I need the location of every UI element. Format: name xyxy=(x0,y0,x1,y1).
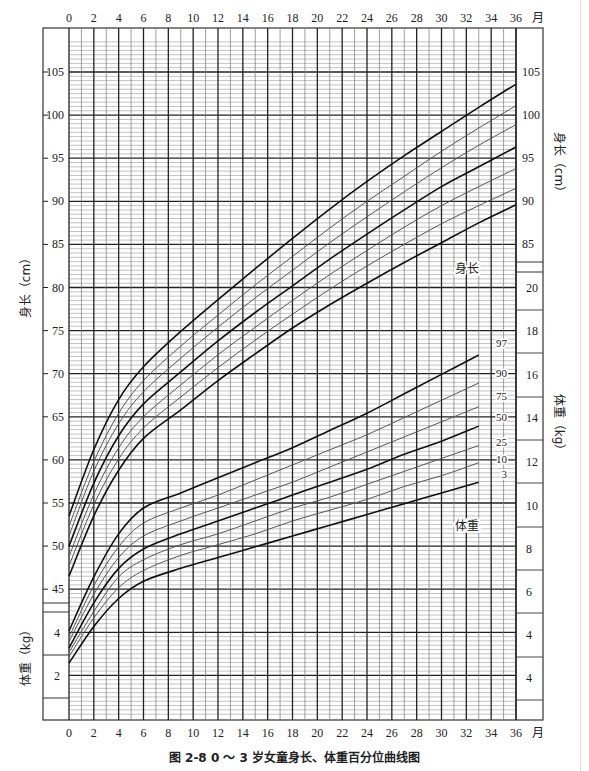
svg-text:10: 10 xyxy=(526,499,538,513)
svg-text:60: 60 xyxy=(52,453,64,467)
svg-text:4: 4 xyxy=(116,726,122,740)
svg-text:14: 14 xyxy=(237,726,249,740)
svg-text:8: 8 xyxy=(165,11,171,25)
weight-axis-title-left: 体重（kg） xyxy=(19,624,33,687)
svg-text:6: 6 xyxy=(141,726,147,740)
svg-text:55: 55 xyxy=(52,496,64,510)
svg-text:65: 65 xyxy=(52,410,64,424)
svg-text:45: 45 xyxy=(52,582,64,596)
svg-text:月: 月 xyxy=(532,726,544,740)
svg-text:24: 24 xyxy=(361,726,373,740)
svg-text:95: 95 xyxy=(522,151,534,165)
svg-text:10: 10 xyxy=(187,11,199,25)
svg-text:100: 100 xyxy=(46,108,64,122)
weight-curve-label: 体重 xyxy=(455,519,479,533)
svg-text:4: 4 xyxy=(526,628,532,642)
svg-text:14: 14 xyxy=(526,411,538,425)
svg-text:26: 26 xyxy=(386,726,398,740)
svg-text:0: 0 xyxy=(66,11,72,25)
percentile-label-90: 90 xyxy=(496,367,508,379)
growth-chart: 0022446688101012121414161618182020222224… xyxy=(0,0,589,771)
svg-text:18: 18 xyxy=(287,726,299,740)
percentile-label-97: 97 xyxy=(496,337,508,349)
svg-text:36: 36 xyxy=(510,11,522,25)
svg-text:16: 16 xyxy=(262,11,274,25)
svg-text:32: 32 xyxy=(460,11,472,25)
svg-text:22: 22 xyxy=(336,11,348,25)
svg-text:12: 12 xyxy=(526,455,538,469)
svg-text:90: 90 xyxy=(52,194,64,208)
figure-caption: 图 2-8 0 ～ 3 岁女童身长、体重百分位曲线图 xyxy=(0,748,589,765)
percentile-label-10: 10 xyxy=(496,453,508,465)
svg-text:30: 30 xyxy=(436,11,448,25)
weight-axis-title-right: 体重（kg） xyxy=(552,394,566,457)
svg-text:22: 22 xyxy=(336,726,348,740)
svg-text:4: 4 xyxy=(116,11,122,25)
svg-text:34: 34 xyxy=(485,11,497,25)
length-curve-label: 身长 xyxy=(455,261,479,276)
length-axis-title-left: 身长（cm） xyxy=(18,252,33,318)
length-axis-title-right: 身长（cm） xyxy=(552,132,567,198)
percentile-label-3: 3 xyxy=(502,468,508,480)
svg-text:18: 18 xyxy=(526,324,538,338)
svg-text:32: 32 xyxy=(460,726,472,740)
svg-text:100: 100 xyxy=(522,108,540,122)
svg-text:26: 26 xyxy=(386,11,398,25)
svg-text:0: 0 xyxy=(66,726,72,740)
percentile-label-25: 25 xyxy=(496,436,508,448)
svg-text:28: 28 xyxy=(411,726,423,740)
svg-text:80: 80 xyxy=(52,281,64,295)
svg-text:2: 2 xyxy=(91,11,97,25)
svg-text:105: 105 xyxy=(522,65,540,79)
svg-text:34: 34 xyxy=(485,726,497,740)
svg-text:6: 6 xyxy=(526,585,532,599)
svg-text:30: 30 xyxy=(436,726,448,740)
svg-text:24: 24 xyxy=(361,11,373,25)
svg-text:12: 12 xyxy=(212,726,224,740)
svg-text:85: 85 xyxy=(522,237,534,251)
svg-text:36: 36 xyxy=(510,726,522,740)
svg-text:20: 20 xyxy=(311,726,323,740)
svg-text:20: 20 xyxy=(311,11,323,25)
svg-text:4: 4 xyxy=(526,671,532,685)
svg-text:月: 月 xyxy=(532,11,544,25)
svg-text:50: 50 xyxy=(52,539,64,553)
svg-text:20: 20 xyxy=(526,281,538,295)
chart-grid xyxy=(43,28,543,720)
svg-text:85: 85 xyxy=(52,237,64,251)
svg-text:12: 12 xyxy=(212,11,224,25)
svg-text:105: 105 xyxy=(46,65,64,79)
svg-text:10: 10 xyxy=(187,726,199,740)
svg-text:18: 18 xyxy=(287,11,299,25)
svg-text:75: 75 xyxy=(52,324,64,338)
svg-text:14: 14 xyxy=(237,11,249,25)
percentile-label-50: 50 xyxy=(496,411,508,423)
svg-text:2: 2 xyxy=(54,669,60,683)
svg-text:8: 8 xyxy=(526,542,532,556)
percentile-label-75: 75 xyxy=(496,390,508,402)
page-edge-divider xyxy=(580,0,581,771)
svg-text:6: 6 xyxy=(141,11,147,25)
svg-text:8: 8 xyxy=(165,726,171,740)
svg-text:28: 28 xyxy=(411,11,423,25)
svg-text:16: 16 xyxy=(262,726,274,740)
svg-text:90: 90 xyxy=(522,194,534,208)
svg-text:2: 2 xyxy=(91,726,97,740)
svg-text:70: 70 xyxy=(52,367,64,381)
svg-text:95: 95 xyxy=(52,151,64,165)
svg-text:16: 16 xyxy=(526,368,538,382)
svg-text:4: 4 xyxy=(54,626,60,640)
